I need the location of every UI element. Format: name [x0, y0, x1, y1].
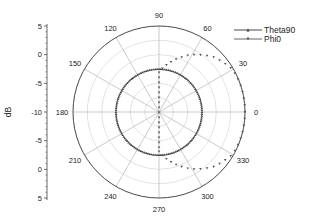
radial-axis-tick-label: 0 — [38, 165, 42, 174]
phi0-marker — [158, 146, 161, 148]
angle-tick-label: 270 — [153, 205, 166, 214]
angle-tick-label: 30 — [239, 59, 247, 68]
radial-axis-tick-label: -5 — [35, 136, 42, 145]
phi0-marker — [186, 167, 189, 169]
legend-item-phi0: Phi0 — [234, 34, 281, 44]
phi0-marker — [158, 101, 161, 103]
phi0-marker — [193, 54, 196, 56]
phi0-marker — [158, 71, 161, 73]
phi0-marker — [212, 166, 215, 168]
phi0-marker — [186, 55, 189, 57]
radial-axis-tick-label: 0 — [38, 50, 42, 59]
phi0-marker — [175, 164, 178, 166]
phi0-marker — [243, 118, 246, 120]
phi0-marker — [243, 104, 246, 106]
radial-axis-tick-label: -5 — [35, 79, 42, 88]
phi0-marker — [229, 155, 232, 157]
phi0-marker — [239, 138, 242, 140]
theta90-marker — [201, 115, 204, 117]
phi0-marker — [224, 63, 227, 65]
phi0-marker — [206, 55, 209, 57]
phi0-marker — [158, 126, 161, 128]
phi0-marker — [212, 56, 215, 58]
angle-tick-label: 90 — [155, 11, 163, 20]
legend-label-phi0: Phi0 — [264, 34, 281, 44]
angle-tick-label: 240 — [104, 192, 117, 201]
phi0-marker — [158, 131, 161, 133]
phi0-marker — [158, 136, 161, 138]
angle-tick-label: 210 — [69, 156, 82, 165]
phi0-marker — [165, 158, 168, 160]
phi0-marker — [158, 86, 161, 88]
phi0-marker — [165, 64, 168, 66]
polar-chart: 0306090120150180210240270300330 50-5-10-… — [0, 0, 310, 222]
angle-tick-label: 60 — [203, 24, 211, 33]
phi0-marker — [241, 91, 244, 93]
phi0-marker — [158, 106, 161, 108]
theta90-marker — [115, 115, 118, 117]
phi0-marker — [170, 161, 173, 163]
radial-axis-left: 50-5-10-505 — [31, 22, 47, 203]
phi0-marker — [175, 58, 178, 60]
phi0-marker — [243, 124, 246, 126]
radial-axis-tick-label: 5 — [38, 22, 42, 31]
phi0-marker — [158, 91, 161, 93]
phi0-marker — [218, 163, 221, 165]
theta90-marker — [201, 109, 204, 111]
phi0-marker — [170, 61, 173, 63]
phi0-marker — [158, 116, 161, 118]
phi0-marker — [199, 54, 202, 56]
phi0-marker — [224, 159, 227, 161]
angle-tick-label: 330 — [237, 156, 250, 165]
angle-tick-label: 300 — [201, 192, 214, 201]
phi0-marker — [158, 76, 161, 78]
angle-tick-label: 0 — [254, 108, 258, 117]
angle-tick-label: 180 — [56, 108, 69, 117]
theta90-marker — [115, 109, 118, 111]
phi0-marker — [229, 67, 232, 69]
phi0-marker — [243, 98, 246, 100]
y-axis-label: dB — [3, 106, 13, 117]
phi0-marker — [218, 59, 221, 61]
angle-tick-label: 150 — [69, 59, 82, 68]
phi0-marker — [158, 121, 161, 123]
theta90-marker — [201, 113, 204, 115]
phi0-marker — [241, 131, 244, 133]
phi0-marker — [180, 166, 183, 168]
phi0-marker — [206, 167, 209, 169]
legend: Theta90 Phi0 — [234, 25, 295, 44]
angle-tick-label: 120 — [104, 24, 117, 33]
radial-axis-tick-label: 5 — [38, 194, 42, 203]
phi0-marker — [193, 168, 196, 170]
theta90-marker — [115, 113, 118, 115]
phi0-marker — [158, 151, 161, 153]
phi0-marker — [158, 141, 161, 143]
phi0-marker — [180, 56, 183, 58]
radial-axis-tick-label: -10 — [31, 108, 42, 117]
